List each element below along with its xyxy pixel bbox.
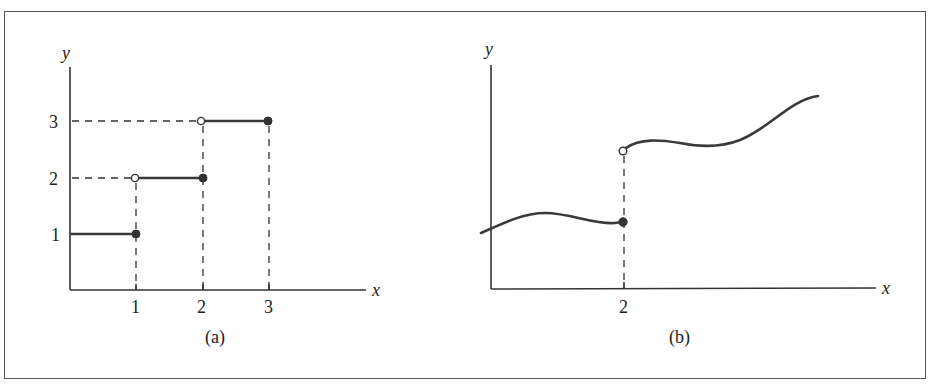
x-tick-label-2: 2 bbox=[197, 297, 206, 317]
figure-canvas: y x 3 2 1 1 2 3 (a) y x 2 (b) bbox=[0, 0, 941, 390]
closed-point-left-branch bbox=[619, 218, 627, 226]
panel-a: y x 3 2 1 1 2 3 (a) bbox=[49, 43, 380, 348]
caption-b: (b) bbox=[669, 327, 690, 348]
panel-b: y x 2 (b) bbox=[481, 39, 890, 348]
y-tick-label-1: 1 bbox=[51, 225, 60, 245]
open-point-1-2 bbox=[131, 174, 138, 181]
left-branch-curve bbox=[481, 213, 622, 233]
open-point-2-3 bbox=[197, 117, 204, 124]
x-tick-label-1: 1 bbox=[131, 297, 140, 317]
y-tick-label-3: 3 bbox=[49, 112, 58, 132]
x-axis-b bbox=[491, 288, 876, 289]
closed-point-2-2 bbox=[199, 174, 207, 182]
x-tick-label-3: 3 bbox=[264, 297, 273, 317]
closed-point-1-1 bbox=[132, 230, 140, 238]
caption-a: (a) bbox=[205, 327, 225, 348]
x-tick-label-2-b: 2 bbox=[619, 297, 628, 317]
y-axis-label-b: y bbox=[483, 39, 493, 59]
right-branch-curve bbox=[626, 96, 818, 148]
y-tick-label-2: 2 bbox=[49, 169, 58, 189]
open-point-right-branch bbox=[619, 147, 627, 155]
x-axis-label-a: x bbox=[371, 280, 380, 300]
closed-point-3-3 bbox=[264, 117, 272, 125]
x-axis-label-b: x bbox=[881, 278, 890, 298]
y-axis-label-a: y bbox=[60, 43, 70, 63]
